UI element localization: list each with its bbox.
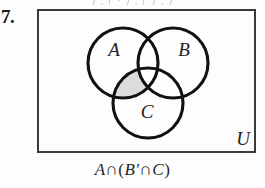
circle-label-c: C	[141, 101, 154, 122]
circle-b	[138, 28, 208, 98]
caption-set-c: C	[152, 160, 164, 179]
venn-diagram-figure: A B C U	[0, 0, 265, 160]
circle-label-a: A	[106, 39, 120, 60]
caption: A∩(B′∩C)	[0, 160, 265, 180]
caption-paren-close: )	[164, 160, 170, 179]
circle-label-b: B	[178, 39, 190, 60]
caption-set-b-complement: B′	[124, 160, 139, 179]
caption-intersection-2: ∩	[140, 160, 153, 179]
caption-set-a: A	[95, 160, 106, 179]
universe-label: U	[236, 128, 251, 149]
caption-intersection-1: ∩	[106, 160, 119, 179]
